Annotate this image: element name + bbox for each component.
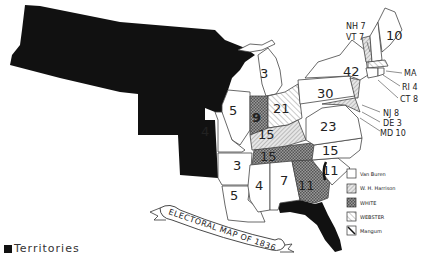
- svg-text:MD 10: MD 10: [380, 129, 406, 138]
- svg-text:4: 4: [255, 178, 263, 193]
- svg-text:WHITE: WHITE: [360, 200, 376, 206]
- svg-text:7: 7: [280, 173, 288, 188]
- svg-text:DE 3: DE 3: [383, 119, 402, 128]
- svg-text:Van Buren: Van Buren: [360, 171, 386, 177]
- state-ri: [378, 68, 384, 76]
- svg-text:5: 5: [230, 188, 238, 203]
- svg-text:W. H. Harrison: W. H. Harrison: [360, 185, 395, 191]
- svg-text:Mangum: Mangum: [360, 228, 382, 235]
- title-banner: ELECTORAL MAP OF 1836: [150, 205, 294, 252]
- state-ct: [366, 68, 378, 78]
- svg-text:CT 8: CT 8: [400, 95, 418, 104]
- svg-text:WEBSTER: WEBSTER: [360, 214, 385, 220]
- svg-text:9: 9: [252, 110, 261, 125]
- svg-text:3: 3: [260, 66, 268, 81]
- svg-text:15: 15: [322, 143, 339, 158]
- svg-text:5: 5: [229, 103, 237, 118]
- legend: Van Buren W. H. Harrison WHITE WEBSTER M…: [347, 169, 395, 235]
- svg-text:30: 30: [317, 86, 334, 101]
- territories-label: Territories: [14, 242, 80, 255]
- svg-text:NJ 8: NJ 8: [383, 109, 399, 118]
- svg-text:RI 4: RI 4: [402, 83, 418, 92]
- svg-text:VT 7: VT 7: [346, 33, 364, 42]
- svg-text:NH 7: NH 7: [346, 22, 366, 31]
- svg-text:10: 10: [386, 28, 403, 43]
- svg-text:21: 21: [273, 101, 290, 116]
- svg-text:15: 15: [258, 127, 275, 142]
- svg-text:MA: MA: [404, 69, 417, 78]
- electoral-map: 10 42 30 23 15 11 11 3 9 21 15 15 5 4 3 …: [0, 0, 431, 268]
- svg-text:15: 15: [260, 149, 277, 164]
- svg-text:4: 4: [201, 124, 209, 139]
- svg-text:11: 11: [322, 163, 339, 178]
- svg-text:11: 11: [298, 178, 315, 193]
- territories-swatch: [4, 245, 12, 253]
- svg-text:42: 42: [343, 64, 360, 79]
- svg-text:3: 3: [233, 158, 241, 173]
- territory-florida: [277, 200, 342, 252]
- svg-text:23: 23: [320, 119, 337, 134]
